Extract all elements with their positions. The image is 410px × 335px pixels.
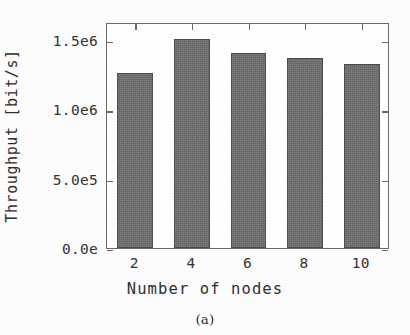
y-tick-label: 0.0e <box>62 241 98 257</box>
figure-caption: (a) <box>0 311 410 327</box>
bar <box>287 58 323 248</box>
bar <box>344 64 380 248</box>
x-tick-label: 4 <box>186 255 195 271</box>
x-tick-label: 2 <box>130 255 139 271</box>
bar <box>231 53 267 248</box>
y-tick-mark <box>107 250 113 251</box>
bar <box>117 73 153 248</box>
y-tick-label: 1.5e6 <box>53 33 98 49</box>
y-tick-mark <box>382 250 388 251</box>
figure-container: Throughput [bit/s] 0.0e5.0e51.0e61.5e6 2… <box>0 0 410 335</box>
y-tick-label: 1.0e6 <box>53 102 98 118</box>
x-axis-title: Number of nodes <box>0 280 410 298</box>
plot-area <box>106 23 389 249</box>
x-tick-label: 8 <box>300 255 309 271</box>
y-axis-title: Throughput [bit/s] <box>3 49 21 222</box>
y-tick-label: 5.0e5 <box>53 172 98 188</box>
bar <box>174 39 210 248</box>
x-tick-label: 6 <box>243 255 252 271</box>
x-tick-label: 10 <box>352 255 370 271</box>
bar-series <box>107 24 388 248</box>
